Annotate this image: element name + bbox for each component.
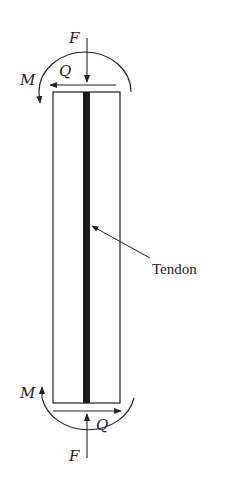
top-shear-label: Q — [59, 62, 71, 80]
bottom-shear-label: Q — [96, 416, 108, 434]
bottom-axial-label: F — [68, 447, 80, 465]
tendon-label: Tendon — [152, 261, 197, 277]
bottom-moment-label: M — [19, 384, 36, 402]
top-axial-label: F — [68, 29, 80, 47]
tendon-bar — [83, 92, 90, 403]
structural-diagram: F Q M F Q M Tendon — [0, 0, 229, 480]
top-moment-label: M — [19, 71, 36, 89]
